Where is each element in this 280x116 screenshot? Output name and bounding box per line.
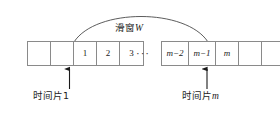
last-time-slice-label: 时间片m xyxy=(182,90,219,102)
ellipsis: ··· xyxy=(131,47,155,59)
first-time-slice-symbol: 1 xyxy=(63,90,69,101)
cell-m-minus-1-label: m−1 xyxy=(193,49,210,58)
cell-m-label: m xyxy=(224,49,231,58)
cell-2: 2 xyxy=(97,42,120,65)
cell-1: 1 xyxy=(74,42,97,65)
sliding-window-label-symbol: W xyxy=(135,23,143,33)
sliding-window-diagram: 1 2 3 ··· m−2 m−1 m 滑窗W 时间片1 时间片m xyxy=(0,0,280,116)
cell-m-minus-1: m−1 xyxy=(189,42,216,65)
cell-m-minus-2-label: m−2 xyxy=(166,49,183,58)
cell-m-minus-2: m−2 xyxy=(162,42,189,65)
right-cell-group: m−2 m−1 m xyxy=(161,41,280,66)
sliding-window-label: 滑窗W xyxy=(115,22,143,34)
sliding-window-label-text: 滑窗 xyxy=(115,22,135,33)
cell-empty-c xyxy=(239,42,262,65)
cell-m: m xyxy=(216,42,239,65)
cell-empty-b xyxy=(51,42,74,65)
left-cell-group: 1 2 3 xyxy=(27,41,144,66)
cell-empty-d xyxy=(262,42,280,65)
last-time-slice-text: 时间片 xyxy=(182,90,212,101)
first-time-slice-label: 时间片1 xyxy=(33,90,69,101)
cell-empty-a xyxy=(28,42,51,65)
last-time-slice-symbol: m xyxy=(212,91,219,101)
first-time-slice-text: 时间片 xyxy=(33,90,63,101)
